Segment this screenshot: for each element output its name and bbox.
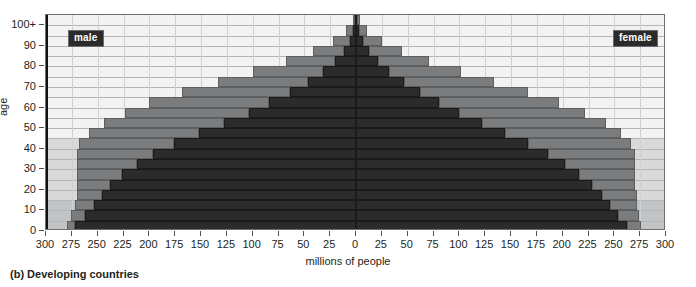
bar-female-current [356, 128, 505, 138]
bar-male-projected [125, 108, 249, 118]
bar-male-projected [89, 128, 199, 138]
x-axis-tick [278, 231, 279, 236]
y-axis-label: 20 [0, 184, 36, 195]
bar-female-projected [439, 97, 559, 107]
y-axis-tick [39, 148, 44, 149]
bar-female-projected [579, 169, 635, 179]
bar-female-current [356, 149, 548, 159]
y-axis-tick [39, 65, 44, 66]
bar-female-projected [482, 118, 606, 128]
x-axis-tick [252, 231, 253, 236]
bar-female-current [356, 210, 618, 220]
bar-female-current [356, 36, 363, 46]
x-axis-tick [45, 231, 46, 236]
plot-area [45, 14, 665, 230]
y-axis-label: 80 [0, 60, 36, 71]
bar-female-current [356, 180, 592, 190]
bar-male-current [94, 200, 356, 210]
bar-male-current [174, 138, 356, 148]
x-axis-tick [407, 231, 408, 236]
bar-female-current [356, 66, 389, 76]
y-axis-label: 10 [0, 204, 36, 215]
y-axis-tick [39, 45, 44, 46]
x-axis-tick [484, 231, 485, 236]
bar-male-current [75, 221, 356, 230]
y-axis-tick [39, 86, 44, 87]
bar-male-projected [75, 200, 94, 210]
bar-female-current [356, 77, 404, 87]
population-pyramid-figure: age 0102030405060708090100+ 300275250225… [0, 0, 696, 287]
x-axis-title: millions of people [0, 255, 696, 267]
y-axis-tick [39, 107, 44, 108]
bar-male-projected [253, 66, 323, 76]
bar-male-projected [67, 221, 75, 230]
bar-male-projected [77, 169, 122, 179]
x-axis-tick [71, 231, 72, 236]
x-axis-tick [97, 231, 98, 236]
bar-male-current [335, 56, 356, 66]
bar-female-current [356, 221, 627, 230]
bar-male-current [224, 118, 356, 128]
y-axis-label: 90 [0, 40, 36, 51]
bar-female-projected [505, 128, 621, 138]
y-axis-label: 60 [0, 102, 36, 113]
bar-female-current [356, 108, 459, 118]
bar-female-projected [528, 138, 631, 148]
y-axis-tick [39, 168, 44, 169]
bar-male-projected [77, 149, 153, 159]
x-axis-label-right: 300 [645, 239, 685, 250]
bar-male-current [110, 180, 356, 190]
bar-male-current [199, 128, 356, 138]
bar-male-projected [182, 87, 289, 97]
bar-female-current [356, 138, 528, 148]
bar-female-projected [459, 108, 585, 118]
bar-male-projected [218, 77, 309, 87]
bar-series-container [46, 15, 664, 229]
bar-female-projected [378, 56, 430, 66]
bar-male-projected [149, 97, 269, 107]
bar-female-projected [618, 210, 639, 220]
bar-male-current [102, 190, 356, 200]
bar-male-projected [77, 159, 137, 169]
legend-tag-male: male [68, 30, 104, 47]
bar-female-projected [357, 15, 360, 25]
x-axis-tick [329, 231, 330, 236]
x-axis-tick [562, 231, 563, 236]
bar-male-projected [313, 46, 344, 56]
bar-female-projected [610, 200, 637, 210]
x-axis-tick [200, 231, 201, 236]
bar-male-current [137, 159, 356, 169]
y-axis-tick [39, 24, 44, 25]
y-axis-label: 100+ [0, 19, 36, 30]
bar-male-current [122, 169, 356, 179]
bar-male-current [249, 108, 356, 118]
bar-female-projected [627, 221, 641, 230]
bar-female-projected [420, 87, 527, 97]
x-axis-tick [381, 231, 382, 236]
x-axis-tick [174, 231, 175, 236]
x-axis-tick [639, 231, 640, 236]
bar-female-projected [565, 159, 635, 169]
bar-female-projected [369, 46, 402, 56]
bar-male-current [85, 210, 356, 220]
bar-female-current [356, 87, 420, 97]
x-axis-tick [123, 231, 124, 236]
x-axis-tick [303, 231, 304, 236]
center-axis-line [46, 15, 48, 229]
bar-male-projected [77, 190, 102, 200]
bar-male-projected [286, 56, 336, 66]
x-axis-tick [588, 231, 589, 236]
bar-female-current [356, 56, 378, 66]
y-axis-tick [39, 189, 44, 190]
y-axis-label: 70 [0, 81, 36, 92]
bar-male-projected [333, 36, 350, 46]
bar-male-current [344, 46, 356, 56]
bar-female-current [356, 200, 610, 210]
bar-female-projected [404, 77, 495, 87]
bar-male-current [269, 97, 356, 107]
y-axis-tick [39, 127, 44, 128]
x-axis-tick [665, 231, 666, 236]
y-axis-label: 30 [0, 163, 36, 174]
y-axis-label: 40 [0, 143, 36, 154]
x-axis-tick [510, 231, 511, 236]
